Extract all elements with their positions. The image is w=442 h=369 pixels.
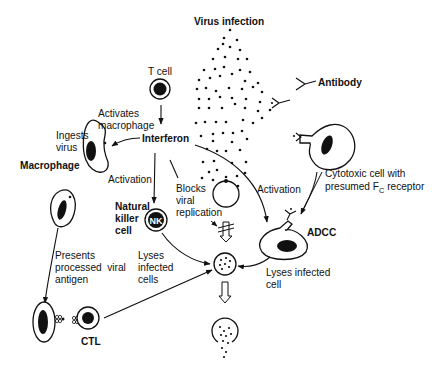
hollow-arrow-icon — [219, 282, 231, 303]
label-blocks-viral-replication: Blocks viral replication — [176, 182, 222, 218]
label-activation-right: Activation — [257, 183, 301, 195]
arrow-interferon-nk — [154, 153, 155, 203]
label-lyses-infected-cells: Lyses infected cells — [138, 249, 173, 285]
adcc-cell-icon — [260, 208, 308, 260]
arrow-interferon-macrophage — [112, 138, 140, 146]
antibody-icon — [271, 78, 316, 108]
line-blocks-replication — [170, 160, 178, 178]
label-presents-antigen: Presents processed viral antigen — [55, 249, 126, 285]
label-activation-left: Activation — [108, 173, 152, 185]
label-cytotoxic-cell: Cytotoxic cell with — [325, 167, 405, 179]
label-fc-receptor: presumed FC receptor — [325, 180, 424, 197]
ctl-cell-icon — [72, 307, 99, 329]
fc-text-pre: presumed F — [325, 180, 379, 192]
label-ctl: CTL — [81, 335, 101, 347]
apc-cell-icon — [33, 302, 65, 342]
label-interferon: Interferon — [142, 132, 189, 144]
virus-particles — [195, 29, 272, 188]
t-cell-icon — [150, 79, 170, 99]
arrow-to-adcc — [301, 172, 317, 214]
fc-text-post: receptor — [384, 180, 424, 192]
arrow-blocks — [211, 221, 217, 226]
label-natural-killer-cell: Natural killer cell — [115, 200, 150, 236]
cytotoxic-cell-icon — [293, 124, 355, 169]
svg-text:NK: NK — [150, 216, 163, 226]
label-ingests-virus: Ingests virus — [56, 129, 89, 153]
burst-cell-icon — [212, 318, 238, 358]
blocked-arrow-icon — [218, 222, 234, 242]
label-virus-infection: Virus infection — [194, 15, 264, 27]
label-macrophage: Macrophage — [20, 159, 80, 171]
label-adcc: ADCC — [307, 226, 336, 238]
label-antibody: Antibody — [318, 76, 362, 88]
label-lyses-infected-cell: Lyses infected cell — [266, 266, 330, 290]
macrophage-small-icon — [51, 190, 76, 227]
lysed-cell-icon — [214, 253, 236, 275]
label-t-cell: T cell — [148, 65, 172, 77]
label-activates-macrophage: Activates macrophage — [98, 107, 154, 131]
